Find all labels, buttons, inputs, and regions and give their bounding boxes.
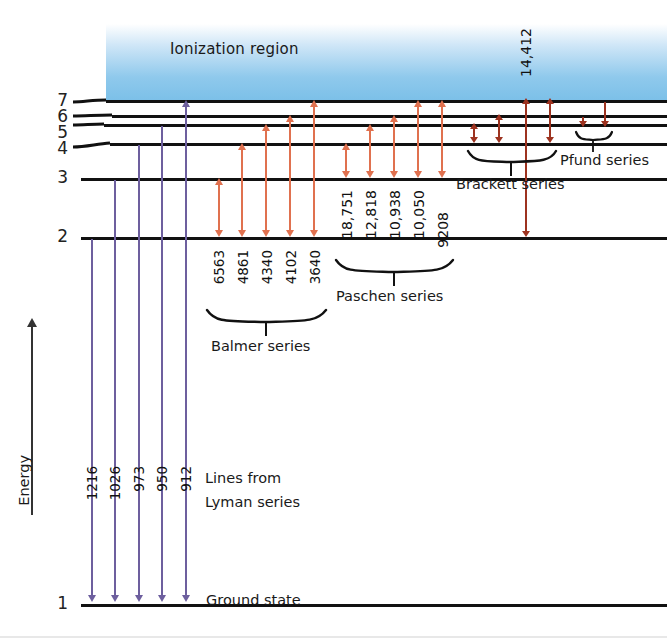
arrowhead-lyman-912	[182, 595, 190, 602]
arrowhead-balmer-6563	[215, 230, 223, 237]
wavelength-label-10938: 10,938	[387, 190, 403, 239]
transition-arrow-paschen-12818	[369, 126, 371, 176]
ionization-region	[106, 24, 667, 100]
level-line-3	[81, 178, 667, 181]
lyman-note-line2: Lyman series	[205, 494, 300, 510]
wavelength-label-4102: 4102	[283, 250, 299, 284]
arrowhead-paschen-10050	[414, 171, 422, 178]
transition-arrow-paschen-10938	[393, 117, 395, 176]
energy-level-diagram: Ionization region 7 6 5 4 3 2 1 1216 102…	[0, 0, 667, 641]
wavelength-label-1026: 1026	[107, 466, 123, 500]
balmer-series-caption: Balmer series	[211, 338, 310, 354]
arrowhead-balmer-4102	[286, 230, 294, 237]
arrowhead-balmer-4340	[262, 230, 270, 237]
arrowhead-paschen-10938-top	[390, 115, 398, 122]
lyman-note-line1: Lines from	[205, 470, 281, 486]
brackett-brace	[466, 148, 558, 176]
arrowhead-balmer-4340-top	[262, 124, 270, 131]
level-line-1	[81, 604, 667, 607]
ionization-region-label: Ionization region	[170, 40, 299, 58]
transition-arrow-balmer-4861	[241, 145, 243, 235]
wavelength-label-6563: 6563	[211, 250, 227, 284]
arrowhead-paschen-10050-top	[414, 100, 422, 107]
arrowhead-lyman-1026	[111, 595, 119, 602]
arrowhead-balmer-6563-top	[215, 178, 223, 185]
pfund-brace	[574, 130, 614, 152]
arrowhead-lyman-973	[135, 595, 143, 602]
level-number-3: 3	[48, 167, 68, 187]
transition-arrow-brackett-7-4	[549, 102, 551, 141]
arrowhead-pfund-6-5	[579, 121, 587, 127]
arrowhead-paschen-9208	[438, 171, 446, 178]
arrowhead-lyman-912-top	[182, 100, 190, 107]
transition-arrow-lyman-1216	[91, 239, 93, 595]
paschen-brace	[334, 256, 456, 286]
ground-state-label: Ground state	[206, 592, 301, 608]
wavelength-label-9208: 9208	[435, 212, 451, 248]
arrowhead-balmer-3640	[310, 230, 318, 237]
wavelength-label-10050: 10,050	[411, 190, 427, 239]
arrowhead-paschen-9208-top	[438, 100, 446, 107]
wavelength-label-18751: 18,751	[339, 190, 355, 239]
transition-arrow-balmer-4340	[265, 126, 267, 235]
arrowhead-paschen-18751-top	[342, 143, 350, 150]
level-number-2: 2	[48, 226, 68, 246]
energy-axis-arrowhead-icon	[27, 318, 37, 327]
energy-axis-label: Energy	[16, 455, 32, 506]
arrowhead-14412-bottom	[522, 231, 530, 237]
transition-arrow-balmer-6563	[218, 180, 220, 235]
arrowhead-lyman-1216	[88, 595, 96, 602]
wavelength-label-12818: 12,818	[363, 190, 379, 239]
arrowhead-balmer-4102-top	[286, 115, 294, 122]
arrowhead-brackett-6-4	[495, 137, 503, 143]
level-number-1: 1	[48, 593, 68, 613]
wavelength-label-1216: 1216	[84, 466, 100, 500]
wavelength-label-973: 973	[131, 466, 147, 492]
brackett-series-caption: Brackett series	[456, 176, 565, 192]
wavelength-label-4861: 4861	[235, 250, 251, 284]
transition-arrow-paschen-9208	[441, 102, 443, 176]
transition-arrow-lyman-1026	[114, 180, 116, 595]
arrowhead-brackett-7-4	[546, 137, 554, 143]
arrowhead-balmer-4861-top	[238, 143, 246, 150]
level-line-7	[106, 100, 667, 103]
level-hooks	[70, 92, 120, 152]
wavelength-label-4340: 4340	[259, 250, 275, 284]
transition-arrow-lyman-950	[161, 126, 163, 595]
arrowhead-14412-top	[522, 98, 530, 104]
arrowhead-lyman-950	[158, 595, 166, 602]
arrowhead-brackett-5-4	[470, 137, 478, 143]
wavelength-label-912: 912	[178, 466, 194, 492]
arrowhead-paschen-18751	[342, 171, 350, 178]
transition-arrow-balmer-4102	[289, 117, 291, 235]
wavelength-label-950: 950	[154, 466, 170, 492]
arrowhead-paschen-12818	[366, 171, 374, 178]
level-number-4: 4	[48, 138, 68, 158]
transition-arrow-paschen-10050	[417, 102, 419, 176]
arrowhead-paschen-10938	[390, 171, 398, 178]
arrowhead-balmer-4861	[238, 230, 246, 237]
arrowhead-pfund-7-5	[601, 121, 609, 127]
pfund-series-caption: Pfund series	[560, 152, 649, 168]
wavelength-label-3640: 3640	[307, 250, 323, 284]
arrowhead-balmer-3640-top	[310, 100, 318, 107]
arrowhead-brackett-7-4-top	[546, 98, 554, 104]
transition-arrow-balmer-3640	[313, 102, 315, 235]
transition-arrow-lyman-973	[138, 145, 140, 595]
paschen-series-caption: Paschen series	[336, 288, 443, 304]
arrowhead-brackett-5-4-top	[470, 123, 478, 129]
arrowhead-brackett-6-4-top	[495, 114, 503, 120]
bottom-divider	[0, 636, 667, 638]
transition-arrow-lyman-912	[185, 102, 187, 595]
balmer-brace	[205, 306, 330, 336]
wavelength-label-14412: 14,412	[518, 28, 534, 77]
arrowhead-paschen-12818-top	[366, 124, 374, 131]
